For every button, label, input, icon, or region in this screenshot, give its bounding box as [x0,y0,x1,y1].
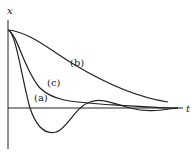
curve-c-label: (c) [47,77,61,88]
curve-a [8,30,178,133]
curve-b-label: (b) [70,57,84,68]
horizontal-axis-label: t [186,103,191,114]
vertical-axis-label: x [7,5,13,16]
damping-diagram: x t (b) (c) (a) [0,0,196,156]
curve-b [8,30,168,102]
curve-a-label: (a) [34,92,48,103]
